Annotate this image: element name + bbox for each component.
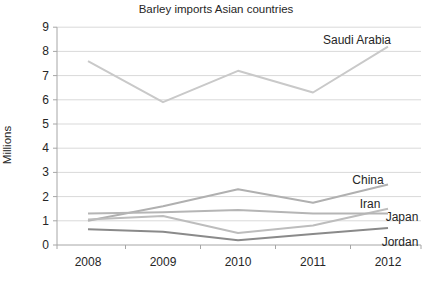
y-tick-label: 5 bbox=[42, 117, 49, 131]
series-label-china: China bbox=[352, 173, 384, 187]
series-label-japan: Japan bbox=[386, 210, 419, 224]
y-tick-label: 6 bbox=[42, 93, 49, 107]
chart-title: Barley imports Asian countries bbox=[139, 3, 294, 15]
series-line-jordan bbox=[88, 228, 388, 240]
y-tick-label: 1 bbox=[42, 214, 49, 228]
series-line-china bbox=[88, 185, 388, 221]
y-tick-label: 2 bbox=[42, 190, 49, 204]
series-label-saudi-arabia: Saudi Arabia bbox=[323, 33, 391, 47]
y-tick-label: 8 bbox=[42, 44, 49, 58]
chart-container: Barley imports Asian countries Millions … bbox=[0, 0, 426, 282]
x-tick-label: 2012 bbox=[375, 255, 402, 269]
chart-canvas: Barley imports Asian countries Millions … bbox=[0, 0, 426, 282]
y-tick-label: 3 bbox=[42, 165, 49, 179]
x-tick-label: 2009 bbox=[150, 255, 177, 269]
series-line-saudi-arabia bbox=[88, 47, 388, 103]
x-tick-label: 2010 bbox=[225, 255, 252, 269]
series-label-iran: Iran bbox=[360, 197, 381, 211]
y-tick-label: 4 bbox=[42, 141, 49, 155]
x-tick-label: 2011 bbox=[300, 255, 326, 269]
y-axis-title: Millions bbox=[1, 126, 13, 165]
y-tick-label: 9 bbox=[42, 20, 49, 34]
x-tick-label: 2008 bbox=[75, 255, 102, 269]
y-tick-label: 7 bbox=[42, 69, 49, 83]
series-label-jordan: Jordan bbox=[382, 235, 419, 249]
y-tick-label: 0 bbox=[42, 238, 49, 252]
